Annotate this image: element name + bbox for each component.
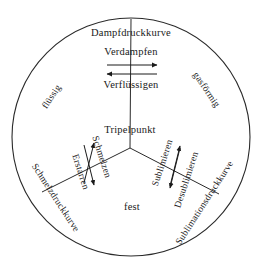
label-verdampfen: Verdampfen — [104, 47, 157, 58]
phase-diagram-figure: Dampfdruckkurve Verdampfen Verflüssigen … — [0, 0, 263, 273]
label-verfluessigen: Verflüssigen — [104, 80, 159, 91]
desublimate-arrow — [170, 148, 180, 188]
label-fest: fest — [124, 202, 140, 213]
label-dampfdruckkurve: Dampfdruckkurve — [91, 28, 171, 39]
label-tripelpunkt: Tripelpunkt — [104, 125, 155, 136]
diagram-canvas — [0, 0, 263, 273]
